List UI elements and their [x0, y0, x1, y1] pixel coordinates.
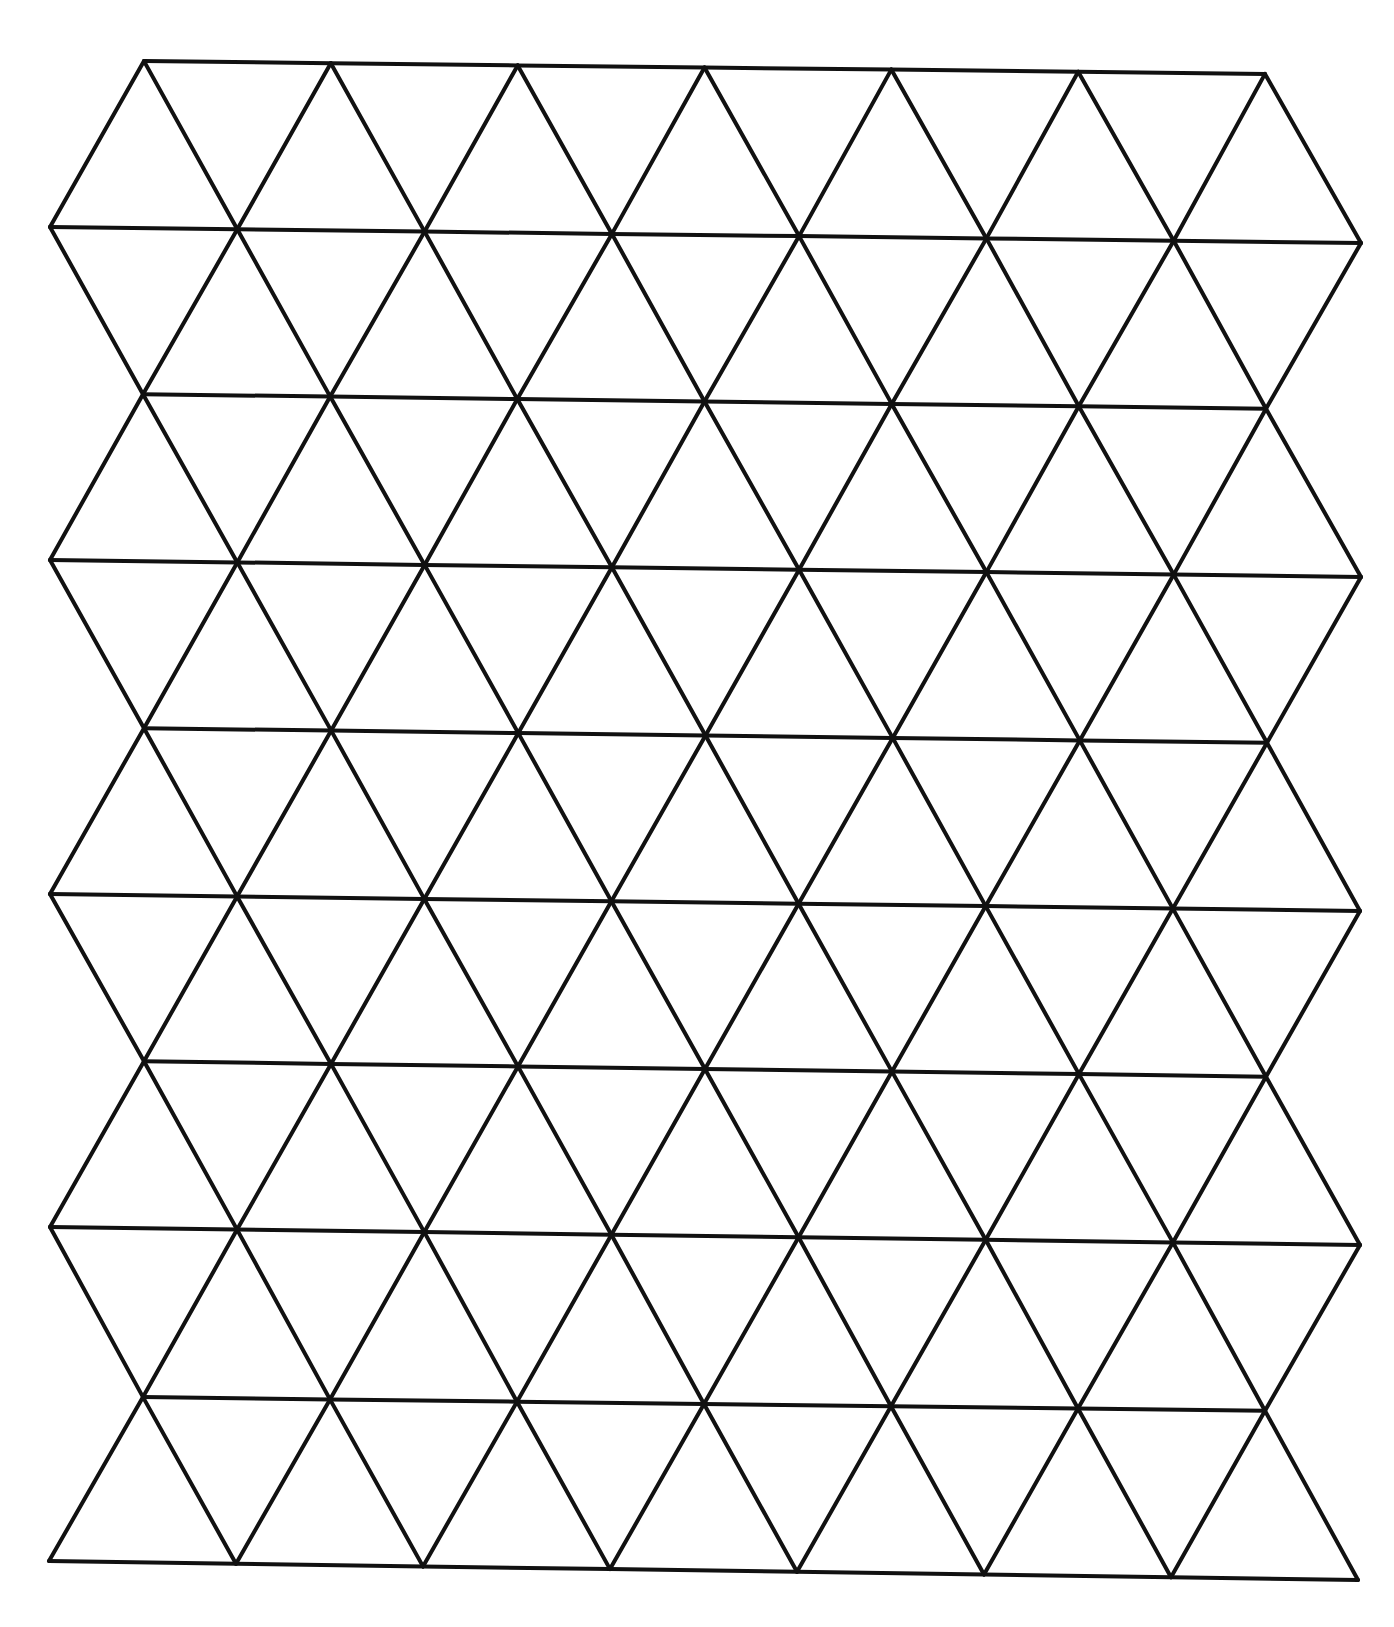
grid-edge-diagonal	[986, 1240, 1078, 1409]
grid-edge-diagonal	[1265, 1411, 1358, 1580]
grid-edge-diagonal	[237, 731, 331, 897]
grid-edge-diagonal	[1078, 1409, 1171, 1578]
grid-edge-diagonal	[893, 572, 987, 738]
grid-edge-diagonal	[1174, 241, 1266, 409]
grid-edge-horizontal	[1174, 241, 1361, 243]
grid-edge-diagonal	[517, 399, 612, 567]
grid-edge-diagonal	[891, 1406, 984, 1574]
grid-edge-horizontal	[50, 560, 237, 562]
grid-edge-diagonal	[50, 1061, 144, 1227]
grid-edge-diagonal	[518, 901, 611, 1066]
grid-edge-diagonal	[50, 560, 144, 728]
grid-edge-horizontal	[425, 565, 612, 567]
grid-edge-horizontal	[705, 68, 892, 70]
grid-edge-diagonal	[517, 1402, 610, 1569]
grid-edge-horizontal	[799, 904, 986, 906]
grid-edge-diagonal	[799, 70, 891, 237]
grid-edge-horizontal	[144, 1061, 331, 1064]
grid-edge-diagonal	[1079, 909, 1173, 1075]
grid-edge-horizontal	[237, 1230, 424, 1233]
grid-edge-horizontal	[986, 1240, 1173, 1243]
grid-edge-horizontal	[612, 234, 799, 236]
diagonal-grid-lines	[49, 61, 1361, 1580]
grid-edge-diagonal	[612, 68, 705, 234]
grid-edge-horizontal	[144, 61, 331, 63]
grid-edge-diagonal	[144, 562, 237, 728]
grid-edge-diagonal	[1265, 74, 1361, 243]
grid-edge-horizontal	[517, 399, 704, 401]
grid-edge-diagonal	[331, 1064, 424, 1232]
grid-edge-diagonal	[611, 1235, 704, 1404]
grid-edge-horizontal	[423, 1566, 610, 1569]
grid-edge-diagonal	[1080, 740, 1173, 908]
grid-edge-horizontal	[50, 894, 237, 896]
grid-edge-diagonal	[1080, 575, 1174, 741]
grid-edge-diagonal	[425, 399, 518, 565]
grid-edge-diagonal	[799, 738, 893, 904]
grid-edge-diagonal	[144, 1061, 237, 1229]
grid-edge-diagonal	[237, 1230, 330, 1400]
grid-edge-diagonal	[237, 1064, 331, 1230]
grid-edge-horizontal	[1078, 72, 1265, 74]
grid-edge-diagonal	[1173, 1077, 1266, 1243]
grid-edge-diagonal	[612, 234, 705, 402]
grid-edge-diagonal	[611, 1069, 705, 1235]
grid-edge-diagonal	[50, 1227, 143, 1397]
grid-edge-horizontal	[1173, 1242, 1360, 1245]
grid-edge-diagonal	[799, 1072, 892, 1238]
grid-edge-diagonal	[797, 1406, 891, 1572]
grid-edge-diagonal	[236, 1399, 330, 1563]
grid-edge-horizontal	[1078, 1409, 1265, 1411]
grid-edge-horizontal	[518, 733, 705, 735]
grid-edge-diagonal	[986, 906, 1079, 1074]
grid-edge-diagonal	[611, 736, 705, 902]
grid-edge-diagonal	[518, 65, 612, 234]
grid-edge-diagonal	[424, 899, 518, 1067]
grid-edge-horizontal	[517, 1402, 704, 1404]
grid-edge-diagonal	[612, 567, 706, 735]
grid-edge-diagonal	[330, 397, 424, 565]
grid-edge-horizontal	[331, 63, 518, 65]
grid-edge-diagonal	[893, 738, 986, 906]
grid-edge-horizontal	[331, 731, 518, 734]
grid-edge-horizontal	[1080, 740, 1267, 742]
grid-edge-diagonal	[1266, 409, 1361, 577]
grid-edge-diagonal	[144, 896, 237, 1061]
grid-edge-diagonal	[1079, 241, 1174, 407]
grid-edge-horizontal	[611, 1235, 798, 1238]
grid-edge-horizontal	[706, 736, 893, 738]
grid-edge-diagonal	[50, 728, 144, 894]
grid-edge-horizontal	[799, 570, 986, 572]
grid-edge-diagonal	[330, 1232, 424, 1399]
grid-edge-horizontal	[891, 1406, 1078, 1408]
grid-edge-horizontal	[143, 394, 330, 396]
grid-edge-horizontal	[986, 572, 1173, 575]
grid-edge-diagonal	[423, 1402, 517, 1567]
grid-edge-diagonal	[984, 1409, 1078, 1575]
grid-edge-diagonal	[331, 731, 424, 899]
grid-edge-horizontal	[424, 1232, 611, 1235]
grid-edge-horizontal	[237, 896, 424, 899]
grid-edge-diagonal	[1265, 1245, 1360, 1411]
grid-edge-horizontal	[705, 402, 892, 404]
grid-edge-diagonal	[237, 63, 330, 229]
grid-edge-horizontal	[236, 1564, 423, 1567]
grid-edge-diagonal	[892, 906, 986, 1072]
grid-edge-diagonal	[1267, 743, 1360, 911]
grid-edge-horizontal	[237, 229, 424, 231]
grid-edge-horizontal	[611, 901, 798, 903]
grid-edge-diagonal	[1174, 409, 1266, 575]
grid-edge-horizontal	[612, 567, 799, 569]
grid-edge-diagonal	[1174, 74, 1265, 241]
grid-edge-diagonal	[330, 1399, 423, 1566]
grid-edge-diagonal	[143, 1230, 237, 1398]
grid-edge-horizontal	[893, 738, 1080, 741]
grid-edge-horizontal	[331, 1064, 518, 1067]
grid-edge-horizontal	[797, 1572, 984, 1575]
grid-edge-horizontal	[986, 906, 1173, 909]
grid-edge-horizontal	[892, 404, 1079, 406]
grid-edge-horizontal	[704, 1404, 891, 1406]
grid-edge-diagonal	[331, 63, 425, 231]
grid-edge-diagonal	[50, 227, 143, 394]
grid-edge-diagonal	[424, 1232, 517, 1402]
